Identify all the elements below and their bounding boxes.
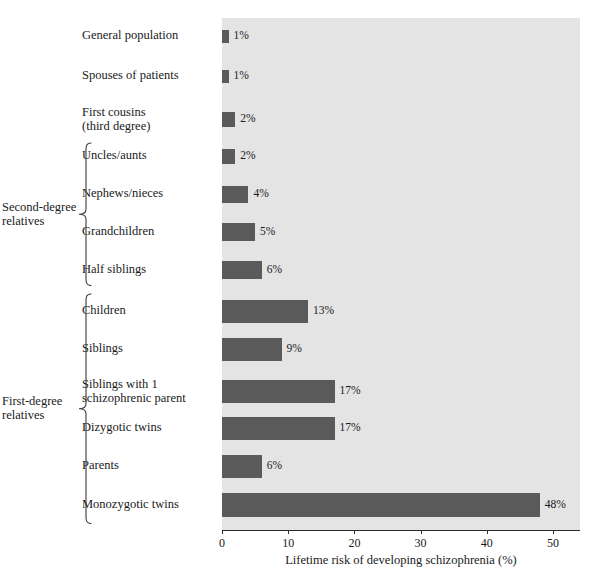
bar-value-label: 48% (545, 499, 566, 511)
category-label: Uncles/aunts (82, 149, 212, 162)
x-axis-tick (421, 530, 422, 534)
bar (222, 112, 235, 127)
category-label: First cousins (third degree) (82, 105, 212, 133)
category-label: Parents (82, 459, 212, 472)
category-label: Siblings (82, 342, 212, 355)
group-label: First-degree relatives (2, 394, 80, 422)
category-label: Grandchildren (82, 225, 212, 238)
group-brace (78, 293, 92, 525)
bar (222, 417, 335, 440)
category-label: Spouses of patients (82, 69, 212, 82)
category-label: Half siblings (82, 263, 212, 276)
x-axis-tick (553, 530, 554, 534)
category-label: General population (82, 29, 212, 42)
bar-value-label: 4% (253, 188, 268, 200)
bar (222, 300, 308, 323)
bar-value-label: 1% (234, 30, 249, 42)
schizophrenia-risk-bar-chart: 1%General population1%Spouses of patient… (0, 0, 600, 578)
x-axis-tick (354, 530, 355, 534)
bar (222, 455, 262, 478)
x-axis-tick (288, 530, 289, 534)
bar-value-label: 6% (267, 264, 282, 276)
bar-value-label: 1% (234, 70, 249, 82)
bar (222, 70, 229, 83)
group-brace (78, 142, 92, 287)
category-label: Children (82, 304, 212, 317)
x-axis-title: Lifetime risk of developing schizophreni… (222, 553, 580, 568)
x-axis-tick (487, 530, 488, 534)
x-axis-tick-label: 50 (547, 536, 559, 551)
x-axis-line (222, 530, 580, 531)
bar-value-label: 6% (267, 460, 282, 472)
x-axis-tick-label: 0 (219, 536, 225, 551)
group-label: Second-degree relatives (2, 200, 80, 228)
x-axis-tick-label: 40 (481, 536, 493, 551)
bar-value-label: 9% (287, 343, 302, 355)
bar (222, 380, 335, 403)
category-label: Siblings with 1 schizophrenic parent (82, 377, 212, 405)
bar-value-label: 2% (240, 113, 255, 125)
bar-value-label: 13% (313, 305, 334, 317)
bar (222, 261, 262, 279)
category-label: Nephews/nieces (82, 187, 212, 200)
x-axis-tick (222, 530, 223, 534)
bar (222, 223, 255, 241)
category-label: Dizygotic twins (82, 421, 212, 434)
x-axis-tick-label: 10 (282, 536, 294, 551)
bar-value-label: 17% (340, 385, 361, 397)
bar-value-label: 2% (240, 150, 255, 162)
bar-value-label: 17% (340, 422, 361, 434)
bar (222, 338, 282, 361)
bar (222, 149, 235, 164)
x-axis-tick-label: 30 (415, 536, 427, 551)
bar (222, 30, 229, 43)
bar-value-label: 5% (260, 226, 275, 238)
bar (222, 186, 248, 203)
category-label: Monozygotic twins (82, 498, 212, 511)
bar (222, 493, 540, 517)
x-axis-tick-label: 20 (348, 536, 360, 551)
